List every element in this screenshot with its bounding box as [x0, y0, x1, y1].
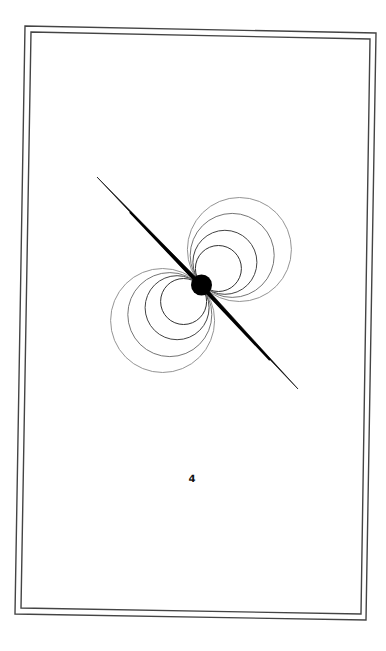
card-canvas: 4	[0, 0, 386, 651]
inner-frame-border	[21, 32, 370, 614]
page-number: 4	[182, 472, 202, 486]
central-body	[191, 275, 212, 296]
illustration-svg	[0, 0, 386, 651]
outer-frame-border	[15, 26, 376, 620]
